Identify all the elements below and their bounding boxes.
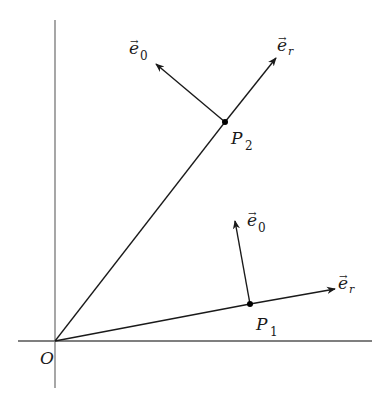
e0-label-main: e	[247, 210, 257, 230]
p2-e0-vector	[156, 64, 225, 122]
radial-line-p1	[55, 304, 250, 341]
p2-er-label: → e r	[277, 33, 294, 58]
origin-label: O	[40, 348, 54, 368]
e0-label-main: e	[129, 38, 139, 58]
diagram-canvas: O P 2 P 1 → e r → e 0 → e r → e 0	[0, 0, 389, 405]
p1-label: P	[255, 314, 268, 334]
radial-line-p2	[55, 122, 225, 341]
e0-label-subscript: 0	[258, 221, 266, 235]
polar-unit-vector-diagram: O P 2 P 1 → e r → e 0 → e r → e 0	[0, 0, 389, 405]
point-p1	[247, 301, 253, 307]
p2-label: P	[230, 128, 243, 148]
p1-er-label: → e r	[338, 271, 355, 296]
e0-label-subscript: 0	[140, 49, 148, 63]
p2-er-vector	[225, 58, 276, 122]
er-label-main: e	[277, 35, 287, 55]
p1-e0-label: → e 0	[247, 208, 266, 235]
p2-label-subscript: 2	[245, 139, 253, 153]
er-label-subscript: r	[349, 283, 355, 296]
p2-e0-label: → e 0	[129, 36, 148, 63]
er-label-main: e	[338, 273, 348, 293]
p1-label-subscript: 1	[270, 325, 278, 339]
p1-er-vector	[250, 289, 335, 304]
p1-e0-vector	[235, 221, 250, 304]
er-label-subscript: r	[288, 45, 294, 58]
point-p2	[222, 119, 228, 125]
